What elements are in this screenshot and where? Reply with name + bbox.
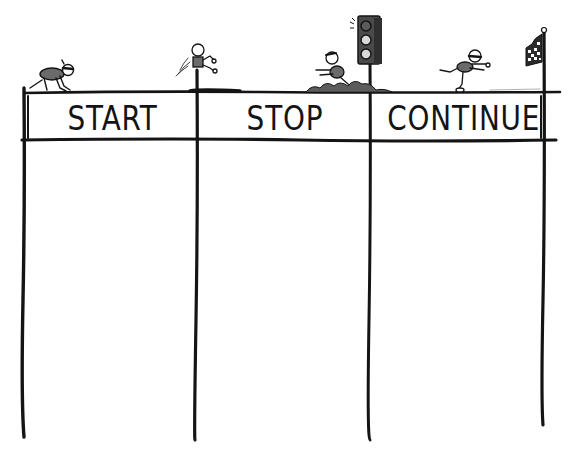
column-body-continue[interactable] (374, 146, 540, 439)
traffic-light-icon (350, 16, 382, 64)
column-header-stop: STOP (215, 96, 354, 140)
column-divider-1 (195, 70, 198, 440)
continue-runner-figure (440, 50, 540, 92)
start-runner-figure (30, 60, 74, 91)
column-body-start[interactable] (28, 146, 194, 439)
column-body-stop[interactable] (200, 146, 366, 439)
column-header-continue: CONTINUE (387, 96, 526, 140)
column-header-start: START (43, 96, 182, 140)
header-top-line (24, 92, 560, 93)
retrospective-board: START STOP CONTINUE (0, 0, 578, 459)
column-divider-2 (368, 62, 370, 440)
